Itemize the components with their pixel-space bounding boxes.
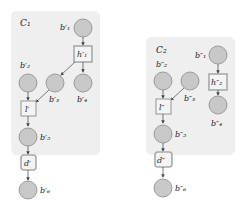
node-b6-c1-label: b′₆ xyxy=(40,186,51,195)
node-b6-c1 xyxy=(19,181,37,199)
node-b3 xyxy=(46,74,64,92)
panel-c1: C₁ b′₁ h′₁ b′₂ b′₃ b′₄ l′ b′₅ xyxy=(11,11,100,155)
node-l-label: l′ xyxy=(25,105,30,114)
node-b4-c2-label: b″₄ xyxy=(211,119,222,128)
node-b1-c2-label: b″₁ xyxy=(195,51,206,60)
node-b1-label: b′₁ xyxy=(60,23,70,32)
node-b6-c2 xyxy=(154,179,172,197)
node-h1-label: h′₁ xyxy=(77,50,87,59)
node-b5-c2 xyxy=(154,125,172,143)
node-b3-c2-label: b″₃ xyxy=(184,94,195,103)
node-b4 xyxy=(74,74,92,92)
node-b5-label: b′₅ xyxy=(40,133,51,142)
node-b6-c2-label: b″₆ xyxy=(175,184,187,193)
node-b2 xyxy=(19,74,37,92)
node-l-c2-label: l″ xyxy=(159,103,165,112)
node-b5-c2-label: b″₅ xyxy=(175,130,187,139)
node-h2-label: h″₂ xyxy=(211,78,222,87)
node-b2-c2 xyxy=(154,72,172,90)
panel-c1-label: C₁ xyxy=(20,18,31,28)
node-b3-label: b′₃ xyxy=(49,95,59,104)
panel-c2: C₂ b″₁ h″₂ b″₄ b″₂ b″₃ l″ b″₅ xyxy=(146,37,235,155)
node-d-c2-label: d″ xyxy=(157,156,165,165)
node-b4-c2 xyxy=(209,96,227,114)
node-d-c1-label: d′ xyxy=(24,159,31,168)
node-b1-c2 xyxy=(209,46,227,64)
node-b5 xyxy=(19,128,37,146)
node-b2-c2-label: b″₂ xyxy=(156,60,167,69)
panel-c2-label: C₂ xyxy=(156,45,167,55)
node-b3-c2 xyxy=(181,72,199,90)
node-b4-label: b′₄ xyxy=(77,95,87,104)
node-b1 xyxy=(74,19,92,37)
node-b2-label: b′₂ xyxy=(20,61,30,70)
diagram: C₁ b′₁ h′₁ b′₂ b′₃ b′₄ l′ b′₅ d′ b′₆ C₂ … xyxy=(0,0,244,213)
